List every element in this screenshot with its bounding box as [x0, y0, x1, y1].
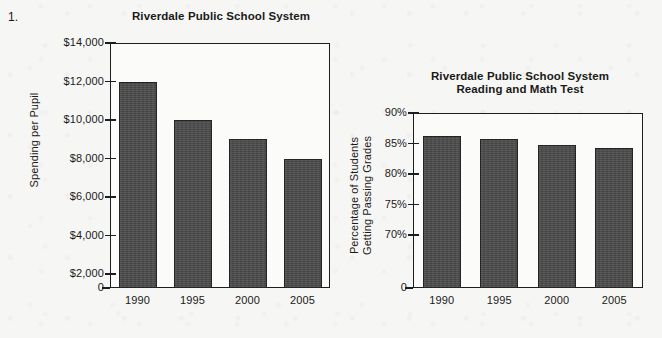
y-tick-label: 0: [40, 281, 104, 293]
y-tick-mark: [405, 287, 413, 289]
bar: [423, 136, 461, 288]
y-tick-label: 85%: [343, 137, 407, 149]
x-tick-label: 2005: [586, 294, 642, 306]
y-tick-label: 90%: [343, 106, 407, 118]
chart-title-passing: Riverdale Public School System Reading a…: [395, 70, 645, 96]
bar: [595, 148, 633, 288]
x-tick-label: 2000: [220, 294, 276, 306]
y-tick-mark: [102, 287, 110, 289]
y-tick-label: 70%: [343, 228, 407, 240]
y-tick-mark: [105, 42, 116, 44]
bar: [174, 120, 212, 288]
x-tick-label: 1995: [471, 294, 527, 306]
y-tick-mark: [105, 235, 116, 237]
x-tick-label: 1990: [110, 294, 166, 306]
x-tick-label: 1995: [165, 294, 221, 306]
y-tick-label: $14,000: [40, 36, 104, 48]
y-tick-mark: [105, 81, 116, 83]
y-tick-label: 75%: [343, 198, 407, 210]
y-tick-mark: [408, 143, 419, 145]
y-tick-label: $6,000: [40, 190, 104, 202]
y-tick-mark: [105, 196, 116, 198]
y-tick-mark: [408, 234, 419, 236]
bar: [538, 145, 576, 288]
y-tick-mark: [408, 204, 419, 206]
y-tick-mark: [408, 112, 419, 114]
y-tick-mark: [105, 273, 116, 275]
x-tick-label: 1990: [414, 294, 470, 306]
y-axis-label-passing: Percentage of Students Getting Passing G…: [348, 103, 374, 288]
y-tick-mark: [105, 158, 116, 160]
y-tick-label: $4,000: [40, 229, 104, 241]
y-tick-mark: [408, 173, 419, 175]
question-number: 1.: [8, 10, 18, 24]
x-tick-label: 2000: [529, 294, 585, 306]
chart-title-spending: Riverdale Public School System: [108, 10, 334, 23]
x-tick-label: 2005: [275, 294, 331, 306]
y-tick-label: 80%: [343, 167, 407, 179]
bar: [480, 139, 518, 288]
y-tick-mark: [105, 119, 116, 121]
y-tick-label: 0: [343, 281, 407, 293]
y-tick-label: $2,000: [40, 267, 104, 279]
bar: [229, 139, 267, 288]
y-axis-label-spending: Spending per Pupil: [28, 25, 41, 255]
y-tick-label: $8,000: [40, 152, 104, 164]
y-tick-label: $12,000: [40, 75, 104, 87]
y-tick-label: $10,000: [40, 113, 104, 125]
bar: [284, 159, 322, 289]
bar: [119, 82, 157, 289]
